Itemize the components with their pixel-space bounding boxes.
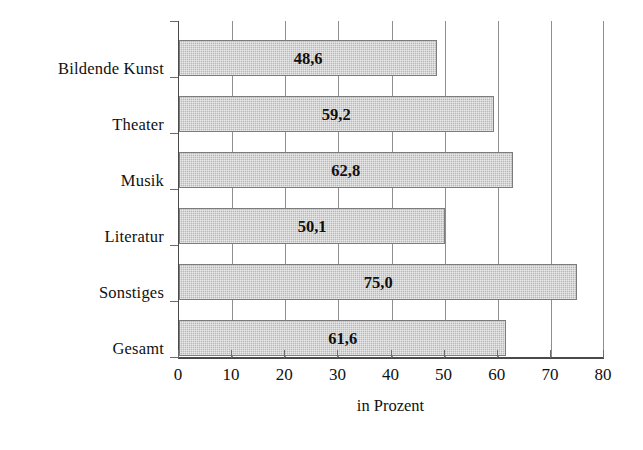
x-axis-title: in Prozent bbox=[178, 398, 603, 415]
bar-value-literatur: 50,1 bbox=[282, 219, 342, 236]
bar-value-gesamt: 61,6 bbox=[313, 331, 373, 348]
category-label-bildende-kunst: Bildende Kunst bbox=[58, 61, 164, 78]
x-axis-tick bbox=[497, 350, 498, 358]
bar-value-musik: 62,8 bbox=[316, 163, 376, 180]
x-axis-tick bbox=[178, 350, 179, 358]
x-axis-tick bbox=[603, 350, 604, 358]
category-label-gesamt: Gesamt bbox=[112, 341, 164, 358]
x-tick-label-30: 30 bbox=[317, 366, 357, 383]
x-tick-label-70: 70 bbox=[530, 366, 570, 383]
x-tick-label-10: 10 bbox=[211, 366, 251, 383]
x-tick-label-20: 20 bbox=[264, 366, 304, 383]
bar-value-sonstiges: 75,0 bbox=[348, 275, 408, 292]
bar-value-theater: 59,2 bbox=[306, 107, 366, 124]
category-label-sonstiges: Sonstiges bbox=[99, 285, 164, 302]
x-tick-label-0: 0 bbox=[158, 366, 198, 383]
gridline-50 bbox=[445, 21, 446, 358]
x-tick-label-40: 40 bbox=[371, 366, 411, 383]
plot-area: 48,6 59,2 62,8 50,1 75,0 61,6 bbox=[178, 21, 603, 358]
x-axis-tick bbox=[337, 350, 338, 358]
x-axis-tick bbox=[550, 350, 551, 358]
x-axis-tick bbox=[444, 350, 445, 358]
x-axis-tick bbox=[391, 350, 392, 358]
category-label-musik: Musik bbox=[121, 173, 164, 190]
x-tick-label-60: 60 bbox=[477, 366, 517, 383]
gridline-80 bbox=[603, 21, 604, 358]
x-axis-tick bbox=[284, 350, 285, 358]
category-label-theater: Theater bbox=[112, 117, 164, 134]
x-tick-label-80: 80 bbox=[583, 366, 623, 383]
bar-value-bildende-kunst: 48,6 bbox=[278, 51, 338, 68]
gridline-70 bbox=[551, 21, 552, 358]
category-label-literatur: Literatur bbox=[104, 229, 164, 246]
category-axis-labels: Bildende Kunst Theater Musik Literatur S… bbox=[0, 21, 172, 358]
x-axis-tick bbox=[231, 350, 232, 358]
x-tick-label-50: 50 bbox=[424, 366, 464, 383]
gridline-60 bbox=[498, 21, 499, 358]
bar-chart: Bildende Kunst Theater Musik Literatur S… bbox=[0, 0, 643, 450]
